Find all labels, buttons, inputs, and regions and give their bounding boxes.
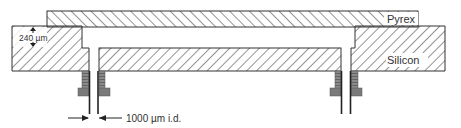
thickness-label: 240 µm (19, 33, 48, 43)
arrow-left-icon (99, 115, 106, 121)
pyrex-label: Pyrex (387, 13, 416, 25)
silicon-substrate-right: Silicon (351, 26, 445, 71)
tube-id-dimension: 1000 µm i.d. (68, 113, 181, 124)
cross-section-diagram: Pyrex 240 µm Silicon (0, 0, 461, 128)
silicon-label: Silicon (387, 54, 419, 66)
tube-id-label: 1000 µm i.d. (126, 113, 181, 124)
arrow-right-icon (82, 115, 89, 121)
silicon-substrate-left: 240 µm (12, 26, 89, 71)
silicon-membrane (99, 48, 341, 71)
tube-right (342, 71, 351, 114)
fitting-left (78, 71, 110, 96)
pyrex-cover: Pyrex (47, 11, 418, 27)
tube-left (90, 71, 99, 114)
fitting-right (330, 71, 362, 96)
